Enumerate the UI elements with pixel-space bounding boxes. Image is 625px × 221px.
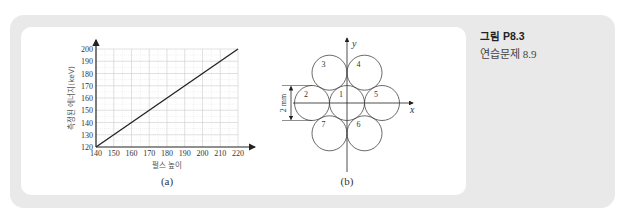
circle-label: 3 xyxy=(322,60,326,69)
x-tick-label: 160 xyxy=(126,149,138,158)
detector-diagram: 1234567 xyxy=(282,38,413,172)
dimension-label: 2 mm xyxy=(279,93,288,112)
y-tick-label: 140 xyxy=(81,119,93,128)
circle-label: 5 xyxy=(374,90,378,99)
chart-xlabel: 펄스 높이 xyxy=(152,160,182,170)
y-tick-label: 120 xyxy=(81,143,93,152)
y-tick-label: 160 xyxy=(81,94,93,103)
detector-circle xyxy=(312,55,347,90)
calibration-chart: 1401501601701801902002102201201301401501… xyxy=(81,40,255,158)
y-tick-label: 130 xyxy=(81,131,93,140)
chart-panel-label: (a) xyxy=(161,175,174,188)
chart-ylabel: 측정된 에너지(keV) xyxy=(66,66,76,130)
diagram-panel-label: (b) xyxy=(341,175,354,188)
y-tick-label: 150 xyxy=(81,106,93,115)
detector-circle xyxy=(347,116,382,151)
figure-canvas: 1401501601701801902002102201201301401501… xyxy=(0,0,625,221)
x-tick-label: 190 xyxy=(179,149,191,158)
diagram-x-axis-label: x xyxy=(409,104,415,115)
detector-circle xyxy=(312,116,347,151)
diagram-y-axis-label: y xyxy=(351,38,357,49)
y-tick-label: 190 xyxy=(81,57,93,66)
x-tick-label: 150 xyxy=(108,149,120,158)
y-tick-label: 170 xyxy=(81,82,93,91)
x-tick-label: 210 xyxy=(214,149,226,158)
x-tick-label: 220 xyxy=(232,149,244,158)
circle-label: 7 xyxy=(322,120,326,129)
x-tick-label: 200 xyxy=(197,149,209,158)
circle-label: 2 xyxy=(304,90,308,99)
x-tick-label: 180 xyxy=(161,149,173,158)
circle-label: 1 xyxy=(339,90,343,99)
circle-label: 4 xyxy=(357,60,361,69)
y-tick-label: 180 xyxy=(81,70,93,79)
detector-circle xyxy=(347,55,382,90)
circle-label: 6 xyxy=(357,120,361,129)
y-tick-label: 200 xyxy=(81,45,93,54)
x-tick-label: 170 xyxy=(143,149,155,158)
